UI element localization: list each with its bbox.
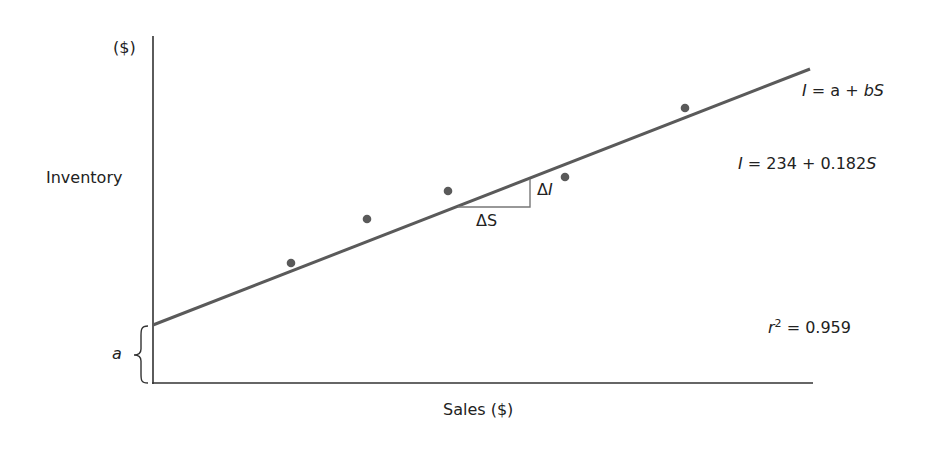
intercept-label: a (112, 344, 122, 363)
delta-symbol: Δ (537, 180, 548, 199)
model-bS: bS (864, 81, 884, 100)
r-var: r (768, 318, 775, 337)
fit-S: S (866, 154, 876, 173)
intercept-brace (134, 326, 148, 383)
fit-rest: = 234 + 0.182 (743, 154, 867, 173)
x-axis-label: Sales ($) (443, 400, 513, 419)
data-point (287, 259, 296, 268)
data-point (363, 215, 372, 224)
r-squared: r2 = 0.959 (768, 317, 851, 337)
y-axis-unit: ($) (113, 38, 136, 57)
r-exponent: 2 (775, 317, 782, 330)
scatter-regression-chart (0, 0, 949, 450)
data-point (561, 173, 570, 182)
regression-line (153, 69, 810, 325)
data-point (681, 104, 690, 113)
delta-i-label: ΔI (537, 180, 553, 199)
data-point (444, 187, 453, 196)
r-value: = 0.959 (782, 318, 851, 337)
delta-i-var: I (548, 180, 553, 199)
delta-s-text: ΔS (476, 211, 497, 230)
delta-s-label: ΔS (476, 211, 497, 230)
data-points (287, 104, 690, 268)
fitted-equation: I = 234 + 0.182S (738, 154, 876, 173)
y-axis-label: Inventory (46, 168, 122, 187)
model-equation: I = a + bS (802, 81, 884, 100)
model-rest: = a + (807, 81, 864, 100)
